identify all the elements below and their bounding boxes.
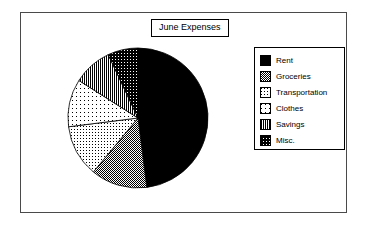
chart-legend: RentGroceriesTransportationClothesSaving… (254, 47, 345, 150)
legend-item-label: Rent (276, 56, 293, 66)
legend-item[interactable]: Savings (260, 117, 340, 132)
legend-swatch-vertical-lines (260, 119, 271, 130)
legend-swatch-solid-black (260, 55, 271, 66)
chart-window: June Expenses RentGroceriesTransportatio… (0, 0, 369, 236)
legend-item[interactable]: Clothes (260, 101, 340, 116)
legend-item[interactable]: Misc. (260, 133, 340, 148)
legend-item[interactable]: Rent (260, 53, 340, 68)
legend-swatch-light-dots (260, 87, 271, 98)
legend-swatch-very-light-dots (260, 103, 271, 114)
legend-item-label: Savings (276, 120, 304, 130)
legend-item-label: Clothes (276, 104, 303, 114)
legend-item[interactable]: Transportation (260, 85, 340, 100)
legend-swatch-crosshatch (260, 135, 271, 146)
legend-item-label: Transportation (276, 88, 327, 98)
chart-title-box: June Expenses (151, 19, 229, 37)
chart-title: June Expenses (159, 22, 221, 33)
legend-item-label: Groceries (276, 72, 311, 82)
legend-swatch-dark-gray (260, 71, 271, 82)
pie-slice[interactable] (138, 48, 208, 187)
legend-item-label: Misc. (276, 136, 295, 146)
legend-item[interactable]: Groceries (260, 69, 340, 84)
